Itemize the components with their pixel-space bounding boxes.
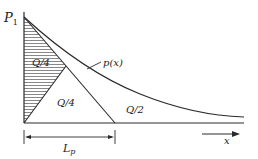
tail-region-label: Q/2 [126, 104, 144, 115]
x-arrow-head-icon [232, 131, 240, 137]
hatched-region-label: Q/4 [32, 57, 50, 68]
middle-region-label: Q/4 [57, 97, 75, 108]
lp-label: Lp [62, 142, 75, 156]
curve-label-leader [87, 62, 101, 69]
p1-label: P1 [3, 10, 18, 27]
lp-arrow-left-icon [25, 135, 31, 139]
lp-arrow-right-icon [108, 135, 114, 139]
x-axis-label: x [224, 135, 230, 146]
pressure-distribution-diagram: P1 p(x) Q/4 Q/4 Q/2 x Lp [0, 0, 258, 159]
curve-label: p(x) [103, 57, 123, 68]
